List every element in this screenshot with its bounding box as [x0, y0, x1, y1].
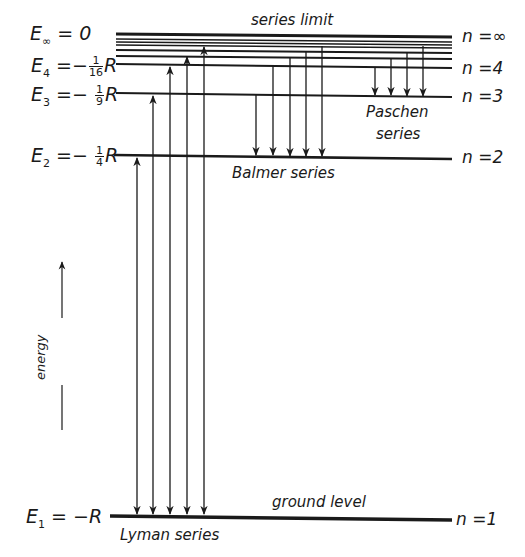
level-n-infinity [116, 34, 452, 37]
ground-level-label: ground level [272, 493, 366, 511]
e1-value: = −R [51, 505, 102, 527]
label-e1: E1 = −R [26, 505, 102, 531]
label-e-infinity: E∞ = 0 [30, 22, 91, 48]
paschen-label-line2: series [376, 125, 420, 143]
rydberg-symbol: R [105, 83, 118, 105]
e-subscript: 1 [38, 518, 45, 531]
e-symbol: E [31, 144, 43, 166]
equals-minus: =− [56, 144, 88, 166]
level-n-9 [116, 39, 452, 42]
e-subscript: 2 [43, 157, 50, 170]
e-infinity-value: = 0 [57, 22, 91, 44]
label-e4: E4 =−116R [31, 54, 117, 80]
n-label-2: n =2 [462, 147, 503, 167]
e-symbol: E [30, 22, 42, 44]
lyman-arrows [137, 47, 204, 514]
level-n-1 [110, 516, 452, 520]
paschen-label-line1: Paschen [366, 103, 429, 121]
n-label-4: n =4 [462, 58, 503, 78]
equals-minus: =− [56, 83, 88, 105]
e-symbol: E [31, 54, 43, 76]
fraction: 116 [89, 55, 103, 78]
balmer-arrows [256, 46, 322, 156]
fraction-denominator: 4 [95, 157, 104, 168]
series-limit-label: series limit [251, 11, 333, 29]
lyman-label: Lyman series [120, 526, 219, 544]
level-n-6 [116, 50, 452, 53]
n-label-3: n =3 [462, 86, 503, 106]
fraction: 19 [95, 84, 104, 107]
label-e2: E2 =− 14R [31, 144, 118, 170]
fraction: 14 [95, 145, 104, 168]
level-n-7 [116, 45, 452, 48]
level-n-8 [116, 42, 452, 45]
label-e3: E3 =− 19R [31, 83, 118, 109]
rydberg-symbol: R [104, 54, 117, 76]
fraction-denominator: 9 [95, 96, 104, 107]
fraction-denominator: 16 [89, 67, 103, 78]
level-n-3 [116, 93, 452, 97]
equals-minus: =− [56, 54, 88, 76]
energy-axis-label: energy [33, 334, 48, 380]
n-label-infinity: n =∞ [462, 26, 507, 46]
level-n-5 [116, 56, 452, 59]
e-symbol: E [26, 505, 38, 527]
e-subscript: ∞ [42, 35, 51, 48]
balmer-label: Balmer series [232, 164, 335, 182]
n-label-1: n =1 [456, 509, 497, 529]
level-n-2 [114, 155, 452, 159]
e-subscript: 4 [43, 67, 50, 80]
e-symbol: E [31, 83, 43, 105]
e-subscript: 3 [43, 96, 50, 109]
rydberg-symbol: R [105, 144, 118, 166]
level-n-4 [116, 64, 452, 68]
